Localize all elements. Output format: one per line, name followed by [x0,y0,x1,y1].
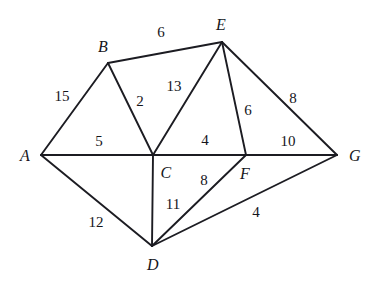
edge-e-g [222,42,337,155]
edge-weight-a-b: 15 [55,89,70,104]
edge-weight-c-f: 4 [201,133,209,148]
edge-weight-d-f: 8 [200,173,208,188]
graph-edges-canvas [0,0,379,284]
edge-weight-c-d: 11 [166,197,180,212]
edge-e-f [222,42,246,155]
edge-weight-b-e: 6 [157,25,165,40]
edge-weight-e-g: 8 [289,91,297,106]
edge-a-d [41,155,152,246]
edge-weight-c-e: 13 [167,79,182,94]
edge-weight-a-d: 12 [89,215,104,230]
edge-weight-b-c: 2 [136,94,144,109]
edge-c-d [152,155,153,246]
edge-weight-f-g: 10 [281,134,296,149]
edge-weight-e-f: 6 [244,103,252,118]
node-label-d: D [147,257,159,273]
edge-weight-d-g: 4 [252,205,260,220]
node-label-g: G [349,148,361,164]
edge-weight-a-c: 5 [95,134,103,149]
node-label-a: A [20,148,30,164]
edge-b-e [108,42,222,63]
edge-c-e [153,42,222,155]
edge-b-c [108,63,153,155]
graph-diagram: 155122613411846810 ABCDEFG [0,0,379,284]
node-label-c: C [161,165,172,181]
node-label-f: F [240,166,250,182]
node-label-e: E [216,17,226,33]
node-label-b: B [98,39,108,55]
